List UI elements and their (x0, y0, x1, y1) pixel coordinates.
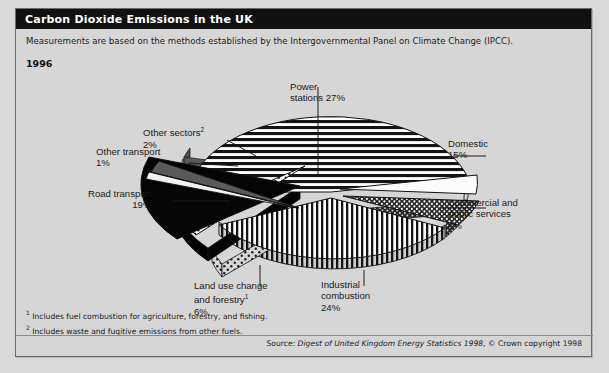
pie-chart-graphic (16, 9, 593, 358)
chart-card: Carbon Dioxide Emissions in the UK Measu… (15, 8, 592, 357)
label-power-stations: Power stations 27% (290, 81, 345, 104)
label-commercial-public-services: Commercial and public services 6% (448, 197, 518, 231)
source-note: Source: Digest of United Kingdom Energy … (267, 339, 582, 348)
footnote-1: 1 Includes fuel combustion for agricultu… (26, 307, 267, 322)
source-divider (16, 335, 593, 336)
label-road-transport: Road transport 19% (88, 188, 151, 211)
label-other-sectors: Other sectors2 2% (143, 124, 204, 150)
footnotes: 1 Includes fuel combustion for agricultu… (26, 307, 267, 336)
footnote-ref-1: 1 (245, 293, 249, 300)
label-industrial-combustion: Industrial combustion 24% (321, 279, 370, 313)
footnote-ref-2: 2 (201, 126, 205, 133)
footnote-2: 2 Includes waste and fugitive emissions … (26, 322, 267, 337)
label-domestic: Domestic 15% (448, 138, 488, 161)
